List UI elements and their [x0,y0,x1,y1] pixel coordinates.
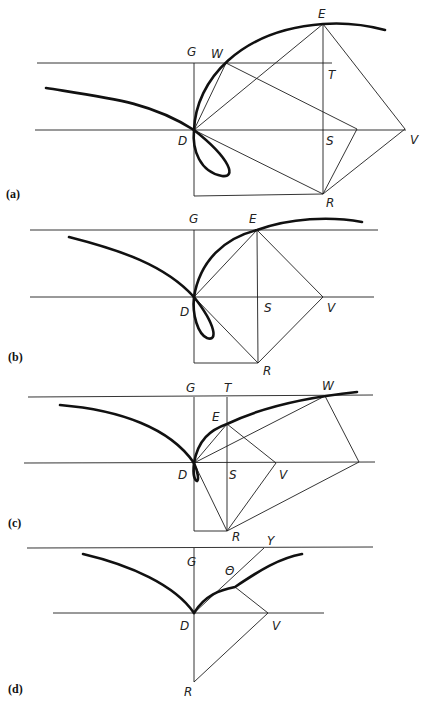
label-G: G [187,45,196,59]
panel-caption-b: (b) [8,350,23,364]
label-E: E [249,212,257,226]
label-R: R [326,196,334,210]
panel-caption-d: (d) [8,682,23,696]
line-V-R [194,613,268,682]
label-G: G [187,555,196,569]
line-axis-to-R [227,462,359,531]
right-branch-curve [194,23,385,130]
panel-a: G W E T D S V R (a) [6,7,419,210]
right-branch-curve [194,219,362,297]
bottom-line [194,194,323,196]
label-D: D [180,619,189,633]
label-D: D [180,305,189,319]
left-branch-curve [46,88,194,130]
line-W-to-axis [226,63,357,129]
loop-curve [194,297,214,339]
label-S: S [326,134,334,148]
label-V: V [279,468,288,482]
label-T: T [328,68,337,82]
label-R: R [263,364,271,378]
left-branch-curve [60,405,194,463]
label-V: V [272,619,281,633]
label-Y: Y [267,534,276,548]
line-Theta-V [235,587,268,613]
label-G: G [189,212,198,226]
line-W-to-axis [325,396,359,462]
line-D-R [194,130,323,194]
panel-b: G E D S V R (b) [8,212,378,378]
right-branch-curve [194,392,357,463]
label-R: R [184,685,192,699]
panel-d: G Y Θ D V R (d) [8,534,373,699]
label-G: G [186,381,195,395]
label-S: S [264,301,272,315]
label-T: T [224,381,233,395]
label-V: V [410,133,419,147]
geometric-figure: G W E T D S V R (a) G E D S V R (b) [0,0,426,709]
upper-horizontal-line [27,547,373,548]
left-branch-curve [83,554,194,613]
small-loop-curve [194,463,198,481]
chord-D-E [194,230,257,297]
chord-D-W [194,63,226,130]
line-V-R [323,129,405,194]
panel-c: G T W E D S V R (c) [8,379,375,544]
panel-caption-a: (a) [6,187,20,201]
line-D-Y [194,548,264,613]
label-W: W [322,379,335,393]
label-E: E [318,7,326,21]
loop-curve [194,130,230,176]
chord-D-E [194,424,227,463]
line-D-R [194,297,258,363]
left-branch-curve [69,237,194,297]
label-R: R [232,530,240,544]
label-V: V [327,301,336,315]
label-D: D [178,134,187,148]
line-D-R [194,463,227,531]
label-E: E [212,410,220,424]
vertical-line-E-R [257,230,258,363]
line-E-V [257,230,323,297]
label-S: S [229,468,237,482]
middle-horizontal-line [24,462,375,463]
label-Theta: Θ [225,564,235,578]
label-W: W [211,47,224,61]
label-D: D [178,468,187,482]
panel-caption-c: (c) [8,516,21,530]
line-E-V [227,424,276,463]
